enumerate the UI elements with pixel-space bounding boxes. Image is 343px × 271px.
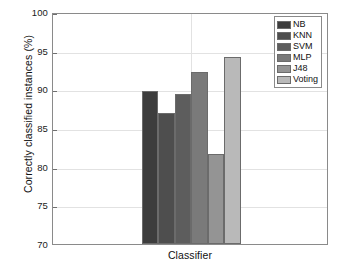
bar-j48 — [208, 154, 225, 244]
legend-item-nb: NB — [277, 19, 318, 30]
legend-label-voting: Voting — [293, 75, 318, 84]
legend-label-svm: SVM — [293, 42, 313, 51]
legend: NBKNNSVMMLPJ48Voting — [274, 16, 322, 88]
legend-swatch-nb — [277, 21, 291, 29]
legend-swatch-svm — [277, 43, 291, 51]
legend-swatch-mlp — [277, 54, 291, 62]
legend-item-knn: KNN — [277, 30, 318, 41]
bar-mlp — [191, 72, 208, 244]
legend-label-knn: KNN — [293, 31, 312, 40]
legend-swatch-knn — [277, 32, 291, 40]
bar-knn — [158, 113, 175, 244]
legend-item-voting: Voting — [277, 74, 318, 85]
bar-nb — [142, 91, 159, 244]
legend-label-j48: J48 — [293, 64, 308, 73]
legend-item-mlp: MLP — [277, 52, 318, 63]
y-axis-title: Correctly classified instances (%) — [22, 0, 34, 230]
bar-svm — [175, 94, 192, 244]
legend-swatch-voting — [277, 76, 291, 84]
legend-swatch-j48 — [277, 65, 291, 73]
bar-chart-figure: 707580859095100 Correctly classified ins… — [0, 0, 343, 271]
bar-voting — [224, 57, 241, 244]
legend-item-j48: J48 — [277, 63, 318, 74]
y-tick-label-70: 70 — [8, 240, 48, 250]
legend-label-mlp: MLP — [293, 53, 312, 62]
legend-label-nb: NB — [293, 20, 306, 29]
x-axis-title: Classifier — [52, 249, 328, 261]
legend-item-svm: SVM — [277, 41, 318, 52]
